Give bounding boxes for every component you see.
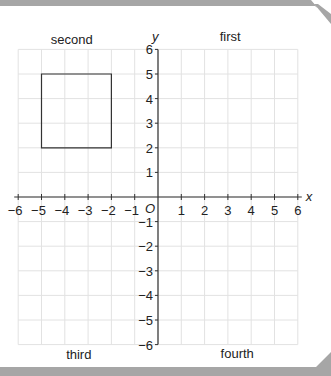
y-tick-label: −4: [138, 288, 153, 303]
x-tick-label: 4: [248, 203, 255, 218]
x-tick-label: −1: [124, 203, 139, 218]
quadrant-label-fourth: fourth: [221, 346, 254, 361]
x-tick-label: −3: [78, 203, 93, 218]
frame-bottom-band: [0, 352, 331, 376]
y-tick-label: −5: [138, 313, 153, 328]
quadrant-label-first: first: [220, 29, 241, 44]
origin-label: O: [145, 201, 155, 216]
frame-top-band: [0, 0, 331, 24]
x-tick-label: 6: [294, 203, 301, 218]
x-tick-label: −6: [8, 203, 23, 218]
y-tick-label: −2: [138, 239, 153, 254]
y-tick-label: −6: [138, 338, 153, 353]
y-tick-label: 2: [146, 141, 153, 156]
x-tick-label: −4: [54, 203, 69, 218]
y-tick-label: 3: [146, 116, 153, 131]
x-axis-label: x: [305, 189, 313, 204]
x-tick-label: 3: [224, 203, 231, 218]
x-tick-label: 2: [201, 203, 208, 218]
quadrant-label-third: third: [66, 347, 91, 362]
y-axis-label: y: [151, 29, 160, 44]
x-tick-label: 1: [178, 203, 185, 218]
y-tick-label: 4: [146, 92, 153, 107]
y-tick-label: −1: [138, 215, 153, 230]
coordinate-plane: −6−5−4−3−2−1123456654321−1−2−3−4−5−6xyOs…: [0, 0, 331, 376]
quadrant-label-second: second: [51, 32, 93, 47]
x-tick-label: −2: [101, 203, 116, 218]
y-tick-label: 6: [146, 42, 153, 57]
square-shape: [42, 74, 112, 148]
x-tick-label: 5: [271, 203, 278, 218]
y-tick-label: −3: [138, 264, 153, 279]
x-tick-label: −5: [31, 203, 46, 218]
y-tick-label: 1: [146, 165, 153, 180]
y-tick-label: 5: [146, 67, 153, 82]
